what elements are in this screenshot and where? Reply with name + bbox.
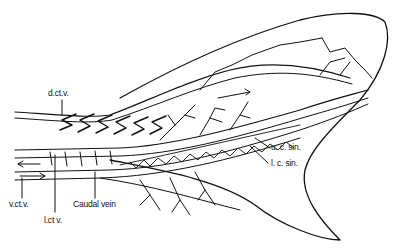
label-ucsin: u. c. sin. [271,142,301,152]
arrow-right [20,173,45,179]
zigzag-vessels [60,114,166,135]
label-vctv: v.ct.v. [9,199,29,209]
axial-vessel-1 [15,90,368,150]
label-lcsin: l. c. sin. [271,158,298,168]
arrow-dorsal [218,89,250,98]
label-lctv: l.ct v. [44,215,62,225]
label-caudal-vein: Caudal vein [73,199,116,209]
fin-outline [110,13,388,240]
label-dctv: d.ct.v. [48,88,69,98]
vertical-ticks [50,151,112,166]
fin-lower-margin [100,178,240,210]
arrow-left [18,161,40,167]
caudal-fin-diagram [0,0,395,251]
